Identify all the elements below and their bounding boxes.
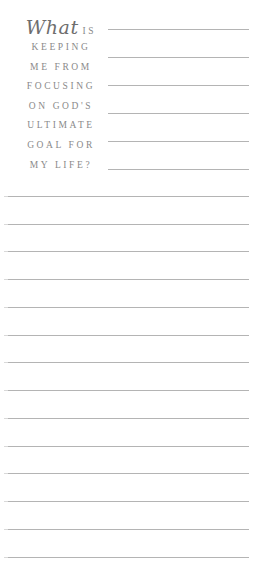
writing-line[interactable] (8, 251, 249, 252)
journal-prompt: What IS KEEPING ME FROM FOCUSING ON GOD'… (16, 16, 106, 175)
writing-line[interactable] (8, 418, 249, 419)
writing-line[interactable] (8, 446, 249, 447)
writing-line[interactable] (8, 335, 249, 336)
writing-line[interactable] (108, 113, 249, 114)
prompt-line: ULTIMATE (16, 116, 106, 136)
prompt-line: ON GOD'S (16, 97, 106, 117)
writing-line[interactable] (8, 307, 249, 308)
writing-line[interactable] (108, 141, 249, 142)
prompt-line: MY LIFE? (16, 156, 106, 176)
writing-line[interactable] (8, 473, 249, 474)
prompt-word-is: IS (83, 26, 97, 36)
writing-line[interactable] (108, 29, 249, 30)
writing-line[interactable] (8, 557, 249, 558)
writing-line[interactable] (108, 57, 249, 58)
writing-line[interactable] (8, 224, 249, 225)
prompt-script-word: What (26, 16, 79, 38)
writing-line[interactable] (108, 169, 249, 170)
prompt-line: KEEPING (16, 38, 106, 58)
writing-line[interactable] (8, 390, 249, 391)
writing-line[interactable] (8, 279, 249, 280)
writing-line[interactable] (8, 362, 249, 363)
writing-line[interactable] (108, 85, 249, 86)
writing-line[interactable] (8, 529, 249, 530)
writing-line[interactable] (8, 501, 249, 502)
prompt-line: GOAL FOR (16, 136, 106, 156)
prompt-line: FOCUSING (16, 77, 106, 97)
writing-line[interactable] (8, 196, 249, 197)
prompt-first-line: What IS (16, 16, 106, 38)
prompt-line: ME FROM (16, 58, 106, 78)
